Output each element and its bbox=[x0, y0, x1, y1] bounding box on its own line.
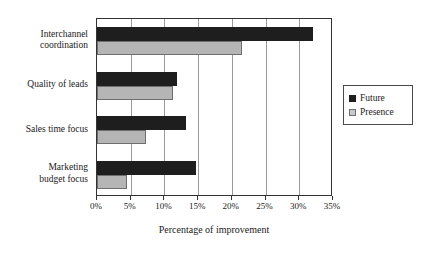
bar-future-0 bbox=[97, 27, 313, 41]
x-tick-mark bbox=[231, 196, 232, 200]
x-tick-mark bbox=[96, 196, 97, 200]
category-label: Interchannel coordination bbox=[0, 29, 88, 52]
legend-item-future[interactable]: Future bbox=[349, 91, 408, 105]
x-tick-mark bbox=[130, 196, 131, 200]
x-tick-mark bbox=[332, 196, 333, 200]
bar-presence-2 bbox=[97, 130, 146, 144]
plot-area bbox=[96, 18, 332, 196]
legend-label: Presence bbox=[360, 107, 394, 117]
bar-future-1 bbox=[97, 72, 177, 86]
x-tick-mark bbox=[298, 196, 299, 200]
category-label: Sales time focus bbox=[0, 124, 88, 136]
x-tick-label: 10% bbox=[146, 201, 180, 211]
x-tick-label: 35% bbox=[315, 201, 349, 211]
category-axis-labels: Interchannel coordinationQuality of lead… bbox=[0, 18, 92, 196]
x-tick-mark bbox=[197, 196, 198, 200]
x-tick-mark bbox=[265, 196, 266, 200]
x-tick-label: 30% bbox=[281, 201, 315, 211]
x-axis-title: Percentage of improvement bbox=[96, 224, 332, 235]
bar-future-2 bbox=[97, 116, 186, 130]
x-tick-label: 0% bbox=[79, 201, 113, 211]
bar-presence-1 bbox=[97, 86, 173, 100]
gridline bbox=[299, 19, 300, 195]
gridline bbox=[266, 19, 267, 195]
legend-label: Future bbox=[360, 93, 385, 103]
category-label: Quality of leads bbox=[0, 79, 88, 91]
x-tick-label: 5% bbox=[113, 201, 147, 211]
legend-swatch-icon bbox=[349, 109, 356, 116]
x-tick-label: 25% bbox=[248, 201, 282, 211]
legend-item-presence[interactable]: Presence bbox=[349, 105, 408, 119]
chart-legend: FuturePresence bbox=[343, 85, 413, 125]
x-tick-label: 20% bbox=[214, 201, 248, 211]
category-label: Marketing budget focus bbox=[0, 162, 88, 185]
x-tick-mark bbox=[163, 196, 164, 200]
legend-swatch-icon bbox=[349, 95, 356, 102]
bar-chart: Interchannel coordinationQuality of lead… bbox=[0, 0, 422, 253]
bar-presence-0 bbox=[97, 41, 242, 55]
x-axis: 0%5%10%15%20%25%30%35% bbox=[96, 196, 332, 220]
bar-future-3 bbox=[97, 161, 196, 175]
bar-presence-3 bbox=[97, 175, 127, 189]
x-tick-label: 15% bbox=[180, 201, 214, 211]
